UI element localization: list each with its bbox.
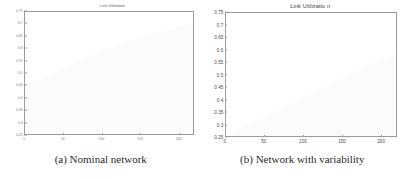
y-tick-label: 0.55 — [16, 59, 23, 63]
y-tick-mark — [24, 48, 27, 49]
y-tick-mark — [24, 35, 27, 36]
caption-b: (b) Network with variability — [202, 153, 403, 165]
x-tick-mark — [140, 133, 141, 136]
x-tick-mark — [381, 135, 382, 138]
plot-a: Link Utilization 0.750.70.650.60.550.50.… — [0, 0, 201, 150]
axes-b — [225, 12, 397, 137]
y-tick-label: 0.3 — [18, 121, 23, 125]
y-axis-b: 0.750.70.650.60.550.50.450.40.350.30.25 — [202, 12, 225, 137]
y-tick-label: 0.25 — [16, 133, 23, 137]
y-tick-mark — [24, 97, 27, 98]
y-tick-label: 0.7 — [18, 21, 23, 25]
x-tick-label: 50 — [61, 137, 65, 141]
subfigure-a: Link Utilization 0.750.70.650.60.550.50.… — [0, 0, 202, 179]
bar-series-b — [226, 13, 396, 136]
x-tick-mark — [225, 135, 226, 138]
x-axis-a: 050100150200 — [24, 136, 194, 146]
y-tick-label: 0.6 — [18, 46, 23, 50]
x-tick-mark — [179, 133, 180, 136]
y-tick-mark — [24, 60, 27, 61]
y-tick-mark — [225, 37, 228, 38]
bar — [193, 24, 194, 134]
axes-a — [24, 11, 194, 135]
x-tick-mark — [102, 133, 103, 136]
y-tick-label: 0.25 — [214, 135, 223, 140]
y-tick-label: 0.75 — [16, 9, 23, 13]
y-tick-label: 0.35 — [16, 108, 23, 112]
y-tick-label: 0.4 — [18, 96, 23, 100]
y-tick-label: 0.65 — [16, 34, 23, 38]
bar-series-a — [25, 12, 193, 134]
y-tick-label: 0.55 — [214, 60, 223, 65]
y-tick-mark — [24, 11, 27, 12]
y-tick-mark — [225, 124, 228, 125]
y-tick-label: 0.6 — [217, 47, 223, 52]
x-tick-mark — [63, 133, 64, 136]
y-tick-mark — [225, 112, 228, 113]
y-tick-label: 0.45 — [16, 83, 23, 87]
x-tick-label: 0 — [223, 139, 226, 144]
y-axis-a: 0.750.70.650.60.550.50.450.40.350.30.25 — [0, 11, 24, 135]
caption-a: (a) Nominal network — [0, 153, 202, 165]
y-tick-label: 0.5 — [217, 72, 223, 77]
y-tick-mark — [225, 62, 228, 63]
x-tick-mark — [24, 133, 25, 136]
x-tick-label: 50 — [261, 139, 266, 144]
y-tick-mark — [24, 122, 27, 123]
y-tick-label: 0.45 — [214, 85, 223, 90]
y-tick-label: 0.3 — [217, 122, 223, 127]
x-tick-label: 200 — [377, 139, 385, 144]
plot-title-b: Link Utilizatio n — [202, 3, 403, 9]
x-tick-label: 150 — [137, 137, 143, 141]
x-tick-mark — [342, 135, 343, 138]
y-tick-label: 0.5 — [18, 71, 23, 75]
y-tick-mark — [24, 85, 27, 86]
figure-row: Link Utilization 0.750.70.650.60.550.50.… — [0, 0, 403, 179]
y-tick-label: 0.65 — [214, 35, 223, 40]
x-tick-label: 100 — [299, 139, 307, 144]
y-tick-label: 0.75 — [214, 10, 223, 15]
y-tick-mark — [225, 87, 228, 88]
x-tick-label: 0 — [23, 137, 25, 141]
x-tick-label: 100 — [99, 137, 105, 141]
y-tick-mark — [225, 49, 228, 50]
y-tick-mark — [225, 99, 228, 100]
x-tick-mark — [303, 135, 304, 138]
x-tick-mark — [264, 135, 265, 138]
y-tick-label: 0.4 — [217, 97, 223, 102]
y-tick-mark — [24, 23, 27, 24]
bar — [396, 52, 397, 136]
y-tick-mark — [225, 74, 228, 75]
y-tick-label: 0.35 — [214, 110, 223, 115]
plot-b: Link Utilizatio n 0.750.70.650.60.550.50… — [202, 0, 403, 150]
x-tick-label: 200 — [176, 137, 182, 141]
subfigure-b: Link Utilizatio n 0.750.70.650.60.550.50… — [202, 0, 403, 179]
y-tick-label: 0.7 — [217, 22, 223, 27]
x-axis-b: 050100150200 — [225, 138, 397, 148]
y-tick-mark — [24, 73, 27, 74]
x-tick-label: 150 — [338, 139, 346, 144]
y-tick-mark — [225, 24, 228, 25]
y-tick-mark — [225, 12, 228, 13]
plot-title-a: Link Utilization — [0, 4, 201, 8]
y-tick-mark — [24, 110, 27, 111]
